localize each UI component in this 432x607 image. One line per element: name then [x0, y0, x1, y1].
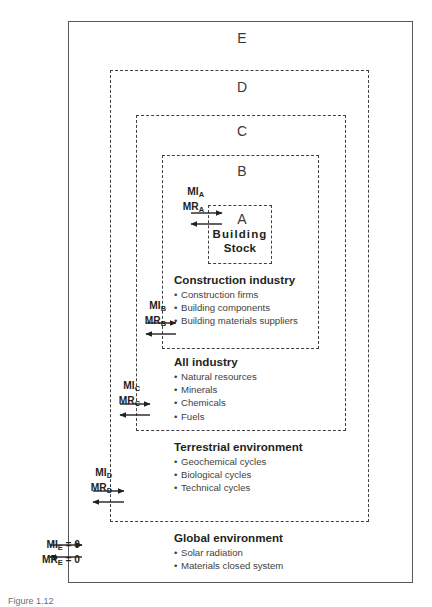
group-title-terrestrial-environment: Terrestrial environment — [174, 440, 303, 454]
flow-label-d: MID MRD — [68, 467, 112, 496]
group-title-global-environment: Global environment — [174, 531, 283, 545]
flow-output-d: MRD — [68, 482, 112, 497]
building-stock-label-line1: Building — [208, 228, 272, 241]
flow-label-a: MIA MRA — [160, 186, 204, 215]
group-construction-industry: Construction industry Construction firms… — [174, 273, 298, 328]
zone-label-d: D — [227, 80, 257, 94]
zone-label-b: B — [227, 164, 257, 178]
group-all-industry: All industry Natural resources Minerals … — [174, 355, 257, 423]
group-terrestrial-environment: Terrestrial environment Geochemical cycl… — [174, 440, 303, 495]
list-item: Fuels — [174, 410, 257, 423]
zone-label-a: A — [227, 212, 257, 226]
flow-output-b: MRB — [122, 315, 166, 330]
list-item: Solar radiation — [174, 546, 283, 559]
flow-output-e: MRE = 0 — [0, 554, 80, 569]
list-item: Chemicals — [174, 396, 257, 409]
list-item: Building components — [174, 301, 298, 314]
figure-caption: Figure 1.12 — [8, 596, 128, 607]
zone-label-e: E — [227, 31, 257, 45]
flow-output-c: MRC — [96, 395, 140, 410]
group-title-all-industry: All industry — [174, 355, 257, 369]
list-item: Technical cycles — [174, 481, 303, 494]
list-item: Geochemical cycles — [174, 455, 303, 468]
group-title-construction-industry: Construction industry — [174, 273, 298, 287]
diagram-canvas: E D C B A Building Stock Construction in… — [0, 0, 432, 607]
group-list-terrestrial-environment: Geochemical cycles Biological cycles Tec… — [174, 455, 303, 495]
list-item: Construction firms — [174, 288, 298, 301]
flow-input-a: MIA — [160, 186, 204, 201]
group-list-global-environment: Solar radiation Materials closed system — [174, 546, 283, 572]
flow-input-c: MIC — [96, 380, 140, 395]
group-global-environment: Global environment Solar radiation Mater… — [174, 531, 283, 572]
flow-label-e: MIE = 0 MRE = 0 — [0, 539, 80, 568]
flow-input-e: MIE = 0 — [0, 539, 80, 554]
flow-output-a: MRA — [160, 201, 204, 216]
flow-label-b: MIB MRB — [122, 300, 166, 329]
list-item: Building materials suppliers — [174, 314, 298, 327]
group-list-all-industry: Natural resources Minerals Chemicals Fue… — [174, 370, 257, 423]
list-item: Biological cycles — [174, 468, 303, 481]
list-item: Minerals — [174, 383, 257, 396]
flow-input-d: MID — [68, 467, 112, 482]
group-list-construction-industry: Construction firms Building components B… — [174, 288, 298, 328]
zone-label-c: C — [227, 124, 257, 138]
flow-input-b: MIB — [122, 300, 166, 315]
flow-label-c: MIC MRC — [96, 380, 140, 409]
building-stock-label-line2: Stock — [208, 242, 272, 255]
list-item: Materials closed system — [174, 559, 283, 572]
list-item: Natural resources — [174, 370, 257, 383]
